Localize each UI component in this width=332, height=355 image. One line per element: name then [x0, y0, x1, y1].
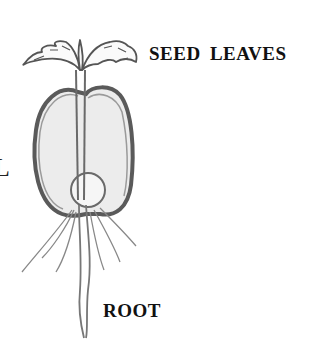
root-label: ROOT: [103, 300, 161, 322]
seed-leaves: [23, 40, 136, 70]
cropped-label-fragment: L: [0, 153, 10, 183]
seed-leaves-label: SEED LEAVES: [149, 43, 286, 65]
seed-germination-diagram: SEED LEAVES ROOT L: [0, 0, 332, 355]
embryo: [71, 173, 105, 207]
root: [79, 205, 90, 338]
